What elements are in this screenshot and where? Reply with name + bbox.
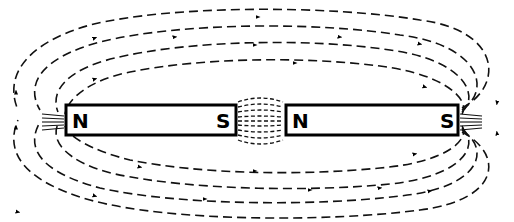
magnetic-field-diagram: N S N S (0, 0, 514, 222)
gap-field-lines (238, 98, 283, 144)
pole-label-s: S (440, 109, 454, 133)
pole-label-n: N (292, 109, 309, 133)
pole-label-s: S (216, 109, 230, 133)
pole-label-n: N (72, 109, 89, 133)
magnet-right: N S (286, 105, 458, 135)
magnet-left: N S (66, 105, 236, 135)
